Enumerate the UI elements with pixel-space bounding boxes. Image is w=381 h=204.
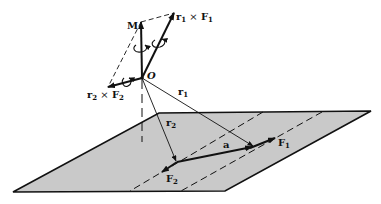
origin-point [140, 76, 144, 80]
label-r2xF2: r2 × F2 [87, 89, 124, 102]
moment-r1xF1-arrow [142, 13, 174, 78]
label-M: M [127, 20, 138, 31]
label-a: a [223, 139, 230, 150]
label-r1: r1 [178, 86, 188, 99]
couple-moment-diagram: M O r1 × F1 r2 × F2 r1 r2 a F1 F2 [0, 0, 381, 204]
label-r1xF1: r1 × F1 [176, 11, 213, 24]
plane [13, 111, 371, 192]
moment-M-arrow [141, 22, 142, 78]
label-O: O [147, 70, 156, 81]
